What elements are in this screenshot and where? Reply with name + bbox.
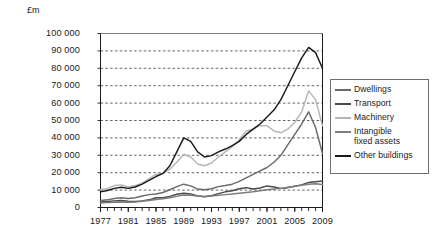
legend-swatch-dwellings [335, 85, 351, 94]
series-line-machinery [101, 91, 323, 190]
chart-legend: Dwellings Transport Machinery Intangible… [330, 79, 429, 174]
legend-item-transport: Transport [335, 99, 424, 109]
legend-item-intangible-fixed-assets: Intangible fixed assets [335, 127, 424, 146]
legend-item-other-buildings: Other buildings [335, 151, 424, 161]
line-chart: £m 010 00020 00030 00040 00050 00060 000… [0, 0, 447, 246]
series-line-transport [101, 181, 323, 202]
legend-swatch-transport [335, 99, 351, 108]
legend-label-other-buildings: Other buildings [354, 150, 413, 160]
legend-label-machinery: Machinery [354, 112, 394, 122]
series-line-other-buildings [101, 47, 323, 191]
legend-label-intangible-fixed-assets-line2: fixed assets [354, 137, 400, 147]
legend-label-transport: Transport [354, 98, 391, 108]
legend-item-machinery: Machinery [335, 113, 424, 123]
legend-item-dwellings: Dwellings [335, 85, 424, 95]
legend-swatch-intangible-fixed-assets [335, 127, 351, 136]
legend-label-intangible-fixed-assets: Intangible [354, 126, 392, 136]
legend-swatch-other-buildings [335, 151, 351, 160]
legend-swatch-machinery [335, 113, 351, 122]
legend-label-dwellings: Dwellings [354, 84, 391, 94]
